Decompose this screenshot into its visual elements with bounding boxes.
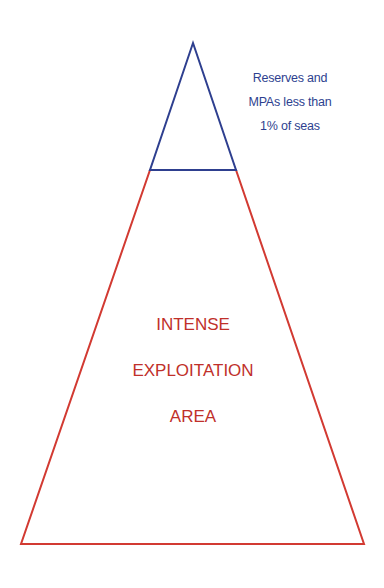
reserves-triangle-shape (150, 43, 236, 170)
reserves-label-line-2: MPAs less than (235, 90, 345, 114)
exploitation-label: INTENSE EXPLOITATION AREA (93, 302, 293, 440)
reserves-label-line-3: 1% of seas (235, 114, 345, 138)
reserves-label: Reserves and MPAs less than 1% of seas (235, 66, 345, 138)
reserves-label-line-1: Reserves and (235, 66, 345, 90)
exploitation-label-line-1: INTENSE (93, 302, 293, 348)
exploitation-label-line-2: EXPLOITATION (93, 348, 293, 394)
exploitation-label-line-3: AREA (93, 394, 293, 440)
